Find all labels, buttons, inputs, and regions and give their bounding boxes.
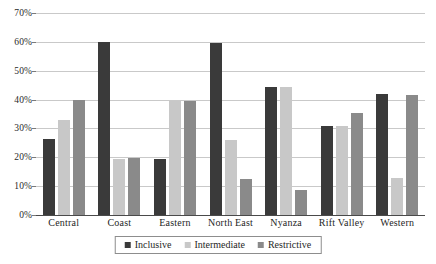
x-axis-category-label: Rift Valley <box>314 217 370 233</box>
bar-group <box>314 13 370 215</box>
legend-swatch-icon <box>184 242 190 248</box>
x-axis-category-labels: CentralCoastEasternNorth EastNyanzaRift … <box>36 217 425 233</box>
bar[interactable] <box>58 120 70 215</box>
grouped-bar-chart: 0%10%20%30%40%50%60%70% CentralCoastEast… <box>0 0 436 264</box>
x-axis-line <box>36 215 425 216</box>
x-axis-category-label: Nyanza <box>258 217 314 233</box>
bar[interactable] <box>295 190 307 215</box>
y-axis-tick-mark <box>32 215 36 216</box>
bar[interactable] <box>73 100 85 215</box>
bar[interactable] <box>391 178 403 216</box>
chart-legend: InclusiveIntermediateRestrictive <box>115 236 322 254</box>
bar[interactable] <box>154 159 166 215</box>
y-axis-tick-labels: 0%10%20%30%40%50%60%70% <box>0 0 32 232</box>
x-axis-category-label: Western <box>369 217 425 233</box>
bar[interactable] <box>169 101 181 215</box>
legend-item[interactable]: Restrictive <box>258 239 311 250</box>
bar[interactable] <box>43 139 55 215</box>
y-axis-tick-label: 40% <box>14 95 32 105</box>
legend-item[interactable]: Inclusive <box>125 239 172 250</box>
x-axis-category-label: Coast <box>92 217 148 233</box>
y-axis-tick-label: 30% <box>14 123 32 133</box>
bar-group <box>203 13 259 215</box>
y-axis-tick-label: 0% <box>19 210 32 220</box>
bar-group <box>258 13 314 215</box>
x-axis-category-label: Eastern <box>147 217 203 233</box>
bar[interactable] <box>351 113 363 215</box>
bar[interactable] <box>336 126 348 215</box>
x-axis-category-label: Central <box>36 217 92 233</box>
bar-groups <box>36 13 425 215</box>
legend-swatch-icon <box>258 242 264 248</box>
bar[interactable] <box>321 126 333 215</box>
y-axis-tick-label: 50% <box>14 66 32 76</box>
bar[interactable] <box>406 95 418 215</box>
legend-label: Restrictive <box>268 239 311 250</box>
bar[interactable] <box>240 179 252 215</box>
bar[interactable] <box>184 101 196 215</box>
bar-group <box>36 13 92 215</box>
legend-item[interactable]: Intermediate <box>184 239 245 250</box>
bar-group <box>147 13 203 215</box>
bar[interactable] <box>128 158 140 215</box>
bar-group <box>369 13 425 215</box>
bar[interactable] <box>376 94 388 215</box>
bar[interactable] <box>265 87 277 215</box>
bar[interactable] <box>113 159 125 215</box>
plot-wrapper: 0%10%20%30%40%50%60%70% CentralCoastEast… <box>0 0 436 232</box>
y-axis-tick-label: 20% <box>14 152 32 162</box>
bar[interactable] <box>210 43 222 215</box>
legend-label: Inclusive <box>135 239 172 250</box>
x-axis-category-label: North East <box>203 217 259 233</box>
y-axis-tick-label: 70% <box>14 8 32 18</box>
bar[interactable] <box>280 87 292 215</box>
y-axis-tick-label: 60% <box>14 37 32 47</box>
legend-swatch-icon <box>125 242 131 248</box>
legend-label: Intermediate <box>194 239 245 250</box>
plot-area <box>36 13 425 215</box>
bar[interactable] <box>98 42 110 215</box>
bar-group <box>92 13 148 215</box>
bar[interactable] <box>225 140 237 215</box>
y-axis-tick-label: 10% <box>14 181 32 191</box>
